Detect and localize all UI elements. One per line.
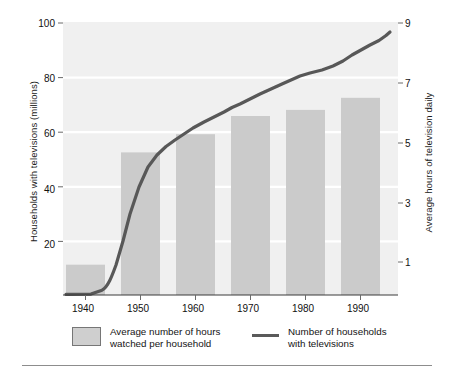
bar-1980 bbox=[286, 110, 325, 295]
left-tick-marks bbox=[58, 23, 63, 241]
chart-figure: Households with televisions (millions) A… bbox=[0, 0, 455, 378]
plot-area bbox=[0, 0, 455, 378]
legend-bar-swatch-icon bbox=[72, 327, 101, 346]
right-tick-marks bbox=[398, 23, 403, 262]
legend-entry-bars: Average number of hours watched per hous… bbox=[72, 326, 220, 349]
x-tick-marks bbox=[86, 295, 361, 300]
legend-line-label: Number of households with televisions bbox=[288, 326, 387, 349]
chart-legend: Average number of hours watched per hous… bbox=[72, 326, 402, 360]
bottom-rule bbox=[22, 365, 432, 366]
legend-bar-label: Average number of hours watched per hous… bbox=[110, 326, 220, 349]
legend-line-swatch-icon bbox=[252, 327, 279, 344]
bar-1990 bbox=[341, 98, 380, 295]
legend-entry-line: Number of households with televisions bbox=[252, 326, 387, 349]
bar-1960 bbox=[176, 134, 215, 295]
bar-1970 bbox=[231, 116, 270, 295]
